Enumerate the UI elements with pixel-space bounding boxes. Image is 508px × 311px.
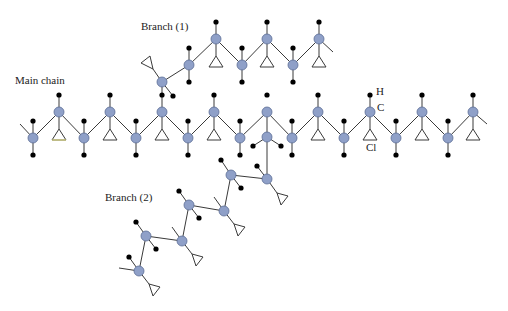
chlorine-triangle-icon — [415, 129, 429, 140]
bond-line — [422, 112, 448, 138]
bond-line — [189, 39, 216, 65]
carbon-circle-icon — [134, 266, 144, 276]
carbon-circle-icon — [131, 133, 141, 143]
legend-chlorine-label: Cl — [366, 142, 376, 153]
carbon-circle-icon — [417, 107, 427, 117]
branch-1-label: Branch (1) — [141, 21, 188, 32]
carbon-circle-icon — [54, 107, 64, 117]
hydrogen-dot-icon — [445, 152, 450, 157]
hydrogen-dot-icon — [107, 92, 112, 97]
bond-line — [110, 112, 136, 138]
hydrogen-dot-icon — [290, 79, 295, 84]
hydrogen-dot-icon — [254, 163, 259, 168]
legend-carbon-label: C — [377, 102, 384, 113]
chlorine-triangle-icon — [260, 56, 274, 67]
hydrogen-dot-icon — [30, 152, 35, 157]
hydrogen-atoms — [30, 19, 475, 259]
hydrogen-dot-icon — [264, 92, 269, 97]
hydrogen-dot-icon — [218, 157, 223, 162]
bond-line — [231, 175, 267, 179]
hydrogen-dot-icon — [30, 118, 35, 123]
chlorine-triangle-icon — [207, 129, 221, 140]
carbon-circle-icon — [157, 107, 167, 117]
carbon-circle-icon — [443, 133, 453, 143]
carbon-circle-icon — [468, 107, 478, 117]
carbon-circle-icon — [391, 133, 401, 143]
carbon-circle-icon — [262, 132, 272, 142]
chlorine-triangle-icon — [192, 254, 203, 266]
carbon-circle-icon — [287, 133, 297, 143]
carbon-circle-icon — [141, 231, 151, 241]
bond-line — [216, 39, 242, 65]
carbon-atoms — [28, 34, 478, 276]
hydrogen-dot-icon — [56, 92, 61, 97]
bond-line — [188, 112, 214, 138]
carbon-circle-icon — [339, 133, 349, 143]
carbon-circle-icon — [28, 133, 38, 143]
hydrogen-dot-icon — [367, 92, 372, 97]
chlorine-triangle-icon — [52, 129, 66, 140]
branch-2-label: Branch (2) — [105, 192, 152, 203]
hydrogen-dot-icon — [196, 215, 201, 220]
hydrogen-dot-icon — [185, 118, 190, 123]
chlorine-triangle-icon — [149, 284, 160, 296]
hydrogen-dot-icon — [264, 19, 269, 24]
bond-line — [292, 112, 318, 138]
bond-line — [396, 112, 422, 138]
chlorine-triangle-icon — [277, 193, 288, 205]
bond-line — [293, 39, 319, 65]
hydrogen-dot-icon — [185, 152, 190, 157]
carbon-circle-icon — [262, 107, 272, 117]
hydrogen-dot-icon — [470, 92, 475, 97]
hydrogen-dot-icon — [316, 19, 321, 24]
bond-line — [214, 112, 240, 138]
pvc-polymer-diagram — [0, 0, 508, 311]
hydrogen-dot-icon — [81, 152, 86, 157]
hydrogen-dot-icon — [153, 246, 158, 251]
carbon-circle-icon — [365, 107, 375, 117]
hydrogen-dot-icon — [170, 93, 175, 98]
hydrogen-dot-icon — [289, 152, 294, 157]
chlorine-triangle-icon — [312, 56, 326, 67]
bond-line — [33, 112, 59, 138]
legend-hydrogen-label: H — [376, 86, 384, 97]
carbon-circle-icon — [157, 77, 167, 87]
carbon-circle-icon — [226, 170, 236, 180]
hydrogen-dot-icon — [211, 92, 216, 97]
carbon-circle-icon — [177, 236, 187, 246]
bond-line — [162, 112, 188, 138]
hydrogen-dot-icon — [393, 152, 398, 157]
hydrogen-dot-icon — [176, 188, 181, 193]
hydrogen-dot-icon — [289, 118, 294, 123]
hydrogen-dot-icon — [445, 118, 450, 123]
hydrogen-dot-icon — [341, 118, 346, 123]
carbon-circle-icon — [105, 107, 115, 117]
carbon-circle-icon — [314, 34, 324, 44]
hydrogen-dot-icon — [213, 19, 218, 24]
carbon-circle-icon — [262, 34, 272, 44]
chlorine-triangle-icon — [141, 56, 153, 69]
chlorine-triangle-icon — [363, 129, 377, 140]
carbon-circle-icon — [184, 60, 194, 70]
hydrogen-dot-icon — [159, 92, 164, 97]
carbon-circle-icon — [235, 133, 245, 143]
hydrogen-dot-icon — [239, 45, 244, 50]
carbon-circle-icon — [184, 200, 194, 210]
hydrogen-dot-icon — [278, 143, 283, 148]
carbon-circle-icon — [219, 206, 229, 216]
carbon-circle-icon — [211, 34, 221, 44]
hydrogen-dot-icon — [419, 92, 424, 97]
carbon-circle-icon — [288, 60, 298, 70]
chlorine-triangle-icon — [466, 129, 480, 140]
chlorine-triangle-icon — [103, 129, 117, 140]
carbon-circle-icon — [209, 107, 219, 117]
hydrogen-dot-icon — [250, 143, 255, 148]
hydrogen-dot-icon — [133, 219, 138, 224]
hydrogen-dot-icon — [186, 45, 191, 50]
bond-line — [267, 39, 293, 65]
bond-line — [224, 175, 231, 211]
hydrogen-dot-icon — [393, 118, 398, 123]
chlorine-triangle-icon — [155, 129, 169, 140]
hydrogen-dot-icon — [186, 79, 191, 84]
hydrogen-dot-icon — [341, 152, 346, 157]
